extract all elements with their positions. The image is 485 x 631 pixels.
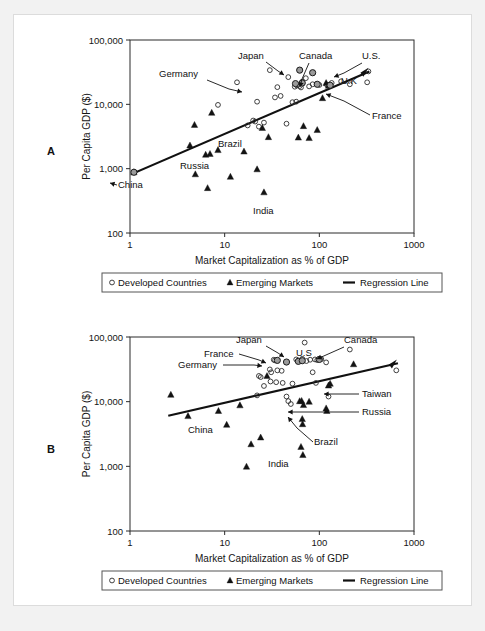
panel-b-plot: 1001,00010,000100,0001101001000Market Ca… [14,315,473,605]
annotation-arrowhead [288,409,293,414]
data-point-emerging [350,361,356,367]
x-tick-label: 10 [219,537,230,548]
annotation-label: France [204,348,234,359]
figure-card: A 1001,00010,000100,0001101001000Market … [13,14,472,606]
data-point-emerging [265,134,271,140]
data-point-developed [286,75,291,80]
data-point-developed [310,370,315,375]
data-point-named-country [299,358,305,364]
annotation-label: Brazil [314,436,338,447]
data-point-emerging [306,135,312,141]
data-point-emerging [295,134,301,140]
annotation-label: India [253,205,274,216]
panel-a-plot: 1001,00010,000100,0001101001000Market Ca… [14,19,473,313]
data-point-developed [303,76,308,81]
figure-page: A 1001,00010,000100,0001101001000Market … [0,0,485,631]
data-point-emerging [215,407,221,413]
annotation-label: Canada [299,50,333,61]
y-axis-title: Per Capita GDP ($) [81,93,92,180]
legend-emerging-label: Emerging Markets [236,277,313,288]
data-point-developed [255,99,260,104]
data-point-emerging [306,398,312,404]
data-point-developed [280,381,285,386]
data-point-developed [273,95,278,100]
data-point-developed [302,340,307,345]
data-point-emerging [300,123,306,129]
data-point-emerging [298,443,304,449]
y-tick-label: 100,000 [89,332,123,343]
data-point-emerging [300,452,306,458]
plot-frame [130,337,414,531]
data-point-emerging [227,173,233,179]
annotation-label: France [372,110,402,121]
data-point-emerging [248,441,254,447]
legend-regression-label: Regression Line [360,575,429,586]
data-point-developed [290,381,295,386]
x-axis-title: Market Capitalization as % of GDP [195,553,349,564]
legend-emerging-label: Emerging Markets [236,575,313,586]
y-axis-title: Per Capita GDP ($) [81,391,92,478]
data-point-emerging [259,125,265,131]
data-point-developed [347,347,352,352]
annotation-arrowhead [237,88,242,93]
panel-a: A 1001,00010,000100,0001101001000Market … [14,19,473,313]
annotation-label: U.S [296,347,312,358]
y-tick-label: 10,000 [94,99,123,110]
y-tick-label: 10,000 [94,396,123,407]
data-point-emerging [191,121,197,127]
data-point-emerging [192,171,198,177]
data-point-developed [262,384,267,389]
annotation-label: Russia [362,406,392,417]
annotation-label: Canada [344,334,378,345]
data-point-developed [365,80,370,85]
data-point-developed [284,121,289,126]
annotation-leader [207,80,242,92]
data-point-emerging [261,189,267,195]
legend-developed-label: Developed Countries [118,575,207,586]
annotation-label: Germany [178,359,217,370]
annotation-label: China [188,424,214,435]
legend-regression-label: Regression Line [360,277,429,288]
data-point-emerging [314,127,320,133]
data-point-emerging [185,413,191,419]
y-tick-label: 1,000 [99,461,123,472]
annotation-label: Brazil [218,138,242,149]
x-tick-label: 1 [127,239,132,250]
data-point-emerging [237,402,243,408]
y-tick-label: 100,000 [89,35,123,46]
annotation-label: India [268,458,289,469]
data-point-developed [324,360,329,365]
annotation-leader [326,94,370,115]
panel-a-letter: A [47,145,55,157]
data-point-named-country [314,81,320,87]
data-point-developed [268,379,273,384]
data-point-emerging [223,421,229,427]
data-point-developed [284,394,289,399]
data-point-emerging [204,185,210,191]
data-point-developed [275,85,280,90]
data-point-emerging [243,463,249,469]
panel-b-letter: B [47,443,55,455]
data-point-emerging [209,109,215,115]
data-point-emerging [257,434,263,440]
annotation-arrowhead [279,352,284,357]
y-tick-label: 100 [107,228,123,239]
data-point-emerging [187,142,193,148]
annotation-arrowhead [257,363,262,368]
x-tick-label: 100 [311,537,327,548]
data-point-named-country [310,70,316,76]
data-point-named-country [131,169,137,175]
data-point-developed [267,68,272,73]
annotation-arrowhead [279,70,284,75]
annotation-label: Taiwan [362,388,392,399]
data-point-developed [235,80,240,85]
legend-developed-label: Developed Countries [118,277,207,288]
data-point-developed [394,368,399,373]
y-tick-label: 1,000 [99,163,123,174]
y-tick-label: 100 [107,526,123,537]
annotation-label: China [118,179,144,190]
annotation-label: Japan [236,334,262,345]
annotation-label: Russia [180,160,210,171]
data-point-named-country [327,82,333,88]
annotation-label: Japan [238,50,264,61]
